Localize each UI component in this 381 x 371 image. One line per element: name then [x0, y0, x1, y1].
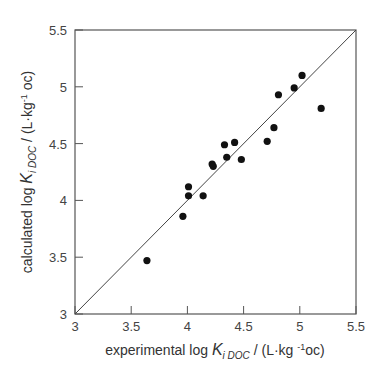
scatter-chart: 33.544.555.5 33.544.555.5 experimental l…	[0, 0, 381, 371]
y-tick-label: 5	[60, 80, 67, 95]
data-point	[223, 154, 230, 161]
data-point	[238, 156, 245, 163]
data-point	[264, 138, 271, 145]
x-tick-label: 4	[184, 319, 191, 334]
data-point	[179, 213, 186, 220]
data-point	[270, 124, 277, 131]
x-tick-label: 5.5	[347, 319, 365, 334]
data-point	[275, 91, 282, 98]
y-tick-labels: 33.544.555.5	[49, 23, 67, 322]
data-point	[210, 163, 217, 170]
x-tick-label: 4.5	[235, 319, 253, 334]
x-axis-title: experimental log Ki DOC / (L·kg -1oc)	[105, 341, 324, 361]
data-point	[298, 72, 305, 79]
data-point	[318, 105, 325, 112]
x-tick-label: 3.5	[122, 319, 140, 334]
data-point	[185, 192, 192, 199]
data-point	[221, 141, 228, 148]
data-points	[143, 72, 324, 264]
one-to-one-line	[75, 30, 356, 314]
data-point	[185, 183, 192, 190]
x-tick-label: 3	[71, 319, 78, 334]
y-tick-label: 3.5	[49, 250, 67, 265]
data-point	[143, 257, 150, 264]
data-point	[231, 139, 238, 146]
y-tick-label: 4.5	[49, 137, 67, 152]
data-point	[200, 192, 207, 199]
x-tick-labels: 33.544.555.5	[71, 319, 365, 334]
y-tick-label: 4	[60, 193, 67, 208]
y-tick-label: 3	[60, 307, 67, 322]
y-tick-label: 5.5	[49, 23, 67, 38]
x-tick-label: 5	[296, 319, 303, 334]
data-point	[291, 84, 298, 91]
y-axis-title: calculated log Ki DOC / (L·kg-1 oc)	[18, 71, 38, 273]
